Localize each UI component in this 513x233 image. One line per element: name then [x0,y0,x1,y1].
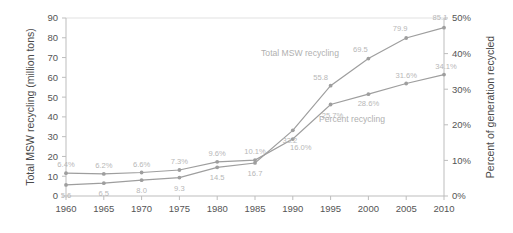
y-tick-label-right: 0% [452,190,466,201]
data-label: 9.3 [174,184,185,193]
data-point [215,165,219,169]
x-tick-label: 1995 [320,203,341,214]
data-label: 31.6% [395,71,417,80]
data-point [329,84,333,88]
y-tick-label-left: 90 [47,12,58,23]
y-tick-label-right: 20% [452,119,472,130]
data-point [102,181,106,185]
data-point [178,168,182,172]
data-point [404,36,408,40]
data-label: 28.6% [358,99,380,108]
y-tick-label-left: 50 [47,92,58,103]
y-tick-label-right: 50% [452,12,472,23]
data-label: 8.0 [136,186,147,195]
data-label: 69.5 [353,45,368,54]
chart-container: 01020304050607080900%10%20%30%40%50%1960… [0,0,513,233]
data-label: 55.8 [313,73,328,82]
y-tick-label-right: 30% [452,84,472,95]
data-point [253,158,257,162]
data-label: 9.6% [209,149,227,158]
y-axis-title-left: Total MSW recycling (million tons) [24,28,36,186]
y-tick-label-left: 70 [47,52,58,63]
x-tick-label: 1965 [93,203,114,214]
data-label: 6.4% [57,160,75,169]
y-tick-label-left: 80 [47,32,58,43]
data-label: 6.6% [133,160,151,169]
data-label: 85.1 [433,13,448,22]
y-tick-label-right: 10% [452,155,472,166]
x-tick-label: 2005 [396,203,417,214]
x-tick-label: 1960 [55,203,76,214]
y-tick-label-right: 40% [452,48,472,59]
series-annotation-percent-recycling: Percent recycling [319,114,385,124]
data-point [140,171,144,175]
data-point [442,73,446,77]
y-axis-title-right: Percent of generation recycled [484,36,496,179]
data-point [442,26,446,30]
data-label: 5.6 [61,191,72,200]
y-tick-label-left: 0 [53,190,58,201]
data-point [140,178,144,182]
y-tick-label-left: 30 [47,131,58,142]
data-label: 14.5 [210,173,225,182]
data-point [64,183,68,187]
data-label: 7.3% [171,157,189,166]
data-point [291,128,295,132]
x-tick-label: 1990 [282,203,303,214]
y-tick-label-left: 60 [47,72,58,83]
recycling-line-chart: 01020304050607080900%10%20%30%40%50%1960… [0,0,513,233]
x-tick-label: 1970 [131,203,152,214]
data-label: 6.2% [95,161,113,170]
data-point [367,57,371,61]
data-label: 6.5 [99,189,110,198]
x-tick-label: 1985 [244,203,265,214]
x-tick-label: 1980 [207,203,228,214]
data-point [215,160,219,164]
data-label: 10.1% [244,147,266,156]
data-label: 16.0% [290,143,312,152]
data-point [102,172,106,176]
data-label: 79.9 [393,24,408,33]
data-point [178,176,182,180]
data-point [367,92,371,96]
data-point [64,171,68,175]
data-label: 16.7 [248,169,263,178]
x-tick-label: 1975 [169,203,190,214]
y-tick-label-left: 10 [47,171,58,182]
data-label: 34.1% [435,62,457,71]
x-tick-label: 2010 [433,203,454,214]
series-annotation-total-msw-recycling: Total MSW recycling [261,48,339,58]
y-tick-label-left: 40 [47,111,58,122]
x-tick-label: 2000 [358,203,379,214]
data-point [329,103,333,107]
data-point [404,82,408,86]
